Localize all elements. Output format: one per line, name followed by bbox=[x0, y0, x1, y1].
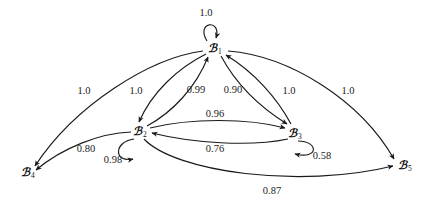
edge-b3-b3 bbox=[295, 141, 313, 155]
edge-weight-b2-b1: 0.99 bbox=[187, 84, 205, 95]
node-b5-subscript: 5 bbox=[407, 164, 411, 173]
node-b1-subscript: 1 bbox=[217, 47, 221, 56]
node-b5-symbol: ℬ bbox=[398, 158, 407, 172]
edge-weight-b3-b3: 0.58 bbox=[313, 150, 331, 161]
edge-b2-b3 bbox=[150, 121, 285, 129]
node-b3-subscript: 3 bbox=[297, 132, 301, 141]
edge-b2-b5 bbox=[144, 139, 393, 177]
node-b1-symbol: ℬ bbox=[208, 41, 217, 55]
edge-weight-b1-b3: 0.90 bbox=[224, 84, 242, 95]
node-b2: ℬ2 bbox=[133, 124, 146, 139]
edge-weight-b2-b5: 0.87 bbox=[263, 185, 281, 196]
node-b3-symbol: ℬ bbox=[288, 126, 297, 140]
edge-b1-b1 bbox=[204, 25, 217, 41]
edge-weight-b1-b1: 1.0 bbox=[199, 7, 212, 18]
edge-weight-b2-b4: 0.80 bbox=[77, 143, 95, 154]
edge-weight-b1-b5: 1.0 bbox=[341, 85, 354, 96]
graph-figure: ℬ1 ℬ2 ℬ3 ℬ4 ℬ5 1.0 0.98 0.58 1.0 1.0 0.9… bbox=[0, 0, 434, 208]
node-b2-symbol: ℬ bbox=[133, 124, 142, 138]
node-b2-subscript: 2 bbox=[142, 130, 146, 139]
node-b4-symbol: ℬ bbox=[21, 165, 30, 179]
edge-weight-b1-b4: 1.0 bbox=[77, 85, 90, 96]
node-b5: ℬ5 bbox=[398, 158, 411, 173]
edge-weight-b1-b2: 1.0 bbox=[129, 85, 142, 96]
edge-weight-b3-b1: 1.0 bbox=[282, 85, 295, 96]
node-b1: ℬ1 bbox=[208, 41, 221, 56]
edge-weight-b3-b2: 0.76 bbox=[206, 143, 224, 154]
edge-weight-b2-b2: 0.98 bbox=[104, 154, 122, 165]
edge-weight-b2-b3: 0.96 bbox=[206, 108, 224, 119]
node-b4: ℬ4 bbox=[21, 165, 34, 180]
node-b3: ℬ3 bbox=[288, 126, 301, 141]
node-b4-subscript: 4 bbox=[30, 171, 34, 180]
graph-canvas bbox=[0, 0, 434, 208]
